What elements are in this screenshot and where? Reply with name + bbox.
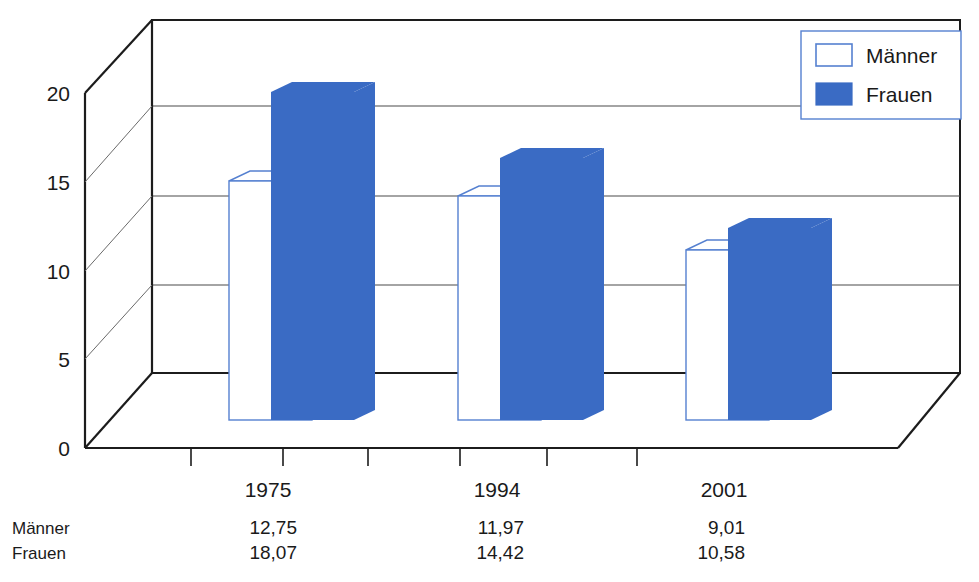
legend-label-maenner: Männer <box>866 44 937 67</box>
x-tick-label-2001: 2001 <box>701 478 748 501</box>
depth-connector-5 <box>85 285 152 359</box>
legend-label-frauen: Frauen <box>866 83 933 106</box>
bar-group-1994 <box>458 148 604 420</box>
bar-frauen-1975-side-face <box>354 82 375 420</box>
bar-frauen-2001-side-face <box>811 218 832 420</box>
table-row-maenner: Männer 12,75 11,97 9,01 <box>12 517 745 538</box>
table-cell-maenner-1975: 12,75 <box>249 517 297 538</box>
bar-frauen-1975[interactable] <box>271 82 375 420</box>
table-cell-maenner-1994: 11,97 <box>478 517 524 538</box>
table-cell-frauen-1975: 18,07 <box>249 542 297 563</box>
bar-frauen-2001-front-face <box>728 228 811 420</box>
legend-entry-frauen[interactable]: Frauen <box>816 83 933 106</box>
chart-page: 20 15 10 5 0 <box>0 0 979 582</box>
data-table: Männer 12,75 11,97 9,01 Frauen 18,07 14,… <box>12 517 745 563</box>
depth-connector-10 <box>85 196 152 271</box>
bar-frauen-1994[interactable] <box>500 148 604 420</box>
chart-legend: Männer Frauen <box>801 31 961 119</box>
left-side-wall <box>85 20 152 448</box>
bar-frauen-1994-front-face <box>500 158 583 420</box>
x-tick-label-1994: 1994 <box>474 478 521 501</box>
x-axis-ticks <box>191 448 637 466</box>
bar-frauen-1994-side-face <box>583 148 604 420</box>
y-tick-label-15: 15 <box>47 171 70 194</box>
table-row-frauen: Frauen 18,07 14,42 10,58 <box>12 542 745 563</box>
bar-chart-3d: 20 15 10 5 0 <box>0 0 979 582</box>
y-axis-ticks: 20 15 10 5 0 <box>47 82 70 460</box>
table-row-label-frauen: Frauen <box>12 544 66 563</box>
floor-left-depth-edge <box>85 373 152 448</box>
bar-frauen-2001[interactable] <box>728 218 832 420</box>
table-cell-frauen-2001: 10,58 <box>697 542 745 563</box>
y-tick-label-20: 20 <box>47 82 70 105</box>
wall-top-depth-edge <box>85 20 152 93</box>
floor-right-depth-edge <box>898 373 960 448</box>
legend-swatch-maenner <box>816 44 852 66</box>
table-cell-frauen-1994: 14,42 <box>476 542 524 563</box>
y-tick-label-0: 0 <box>58 437 70 460</box>
depth-connector-15 <box>85 106 152 182</box>
table-row-label-maenner: Männer <box>12 519 70 538</box>
bar-frauen-1975-front-face <box>271 92 354 420</box>
legend-swatch-frauen <box>816 83 852 105</box>
x-tick-label-1975: 1975 <box>245 478 292 501</box>
legend-entry-maenner[interactable]: Männer <box>816 44 937 67</box>
x-axis-labels: 1975 1994 2001 <box>245 478 748 501</box>
y-tick-label-5: 5 <box>58 348 70 371</box>
table-cell-maenner-2001: 9,01 <box>708 517 745 538</box>
y-tick-label-10: 10 <box>47 260 70 283</box>
bar-group-2001 <box>686 218 832 420</box>
